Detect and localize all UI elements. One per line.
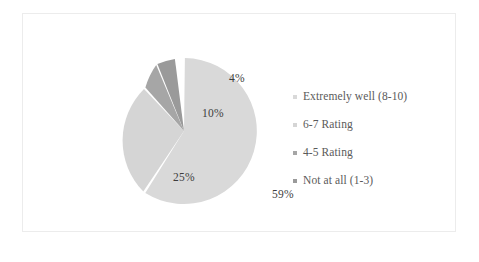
- slice-value-label-extremely-well: 59%: [272, 188, 294, 200]
- square-marker-icon: [293, 95, 297, 99]
- chart-legend: Extremely well (8-10) 6-7 Rating 4-5 Rat…: [293, 83, 463, 195]
- slice-value-label-not-at-all: 4%: [229, 72, 245, 84]
- legend-item-label: Not at all (1-3): [303, 174, 373, 186]
- pie-plot-area: 59% 25% 10% 4%: [89, 45, 279, 220]
- legend-item-extremely-well[interactable]: Extremely well (8-10): [293, 83, 463, 109]
- square-marker-icon: [293, 179, 297, 183]
- pie-chart-svg: [89, 45, 279, 220]
- slice-value-label-4-5-rating: 10%: [202, 107, 224, 119]
- legend-item-label: Extremely well (8-10): [303, 90, 407, 102]
- legend-item-4-5-rating[interactable]: 4-5 Rating: [293, 139, 463, 165]
- square-marker-icon: [293, 151, 297, 155]
- legend-item-label: 6-7 Rating: [303, 118, 353, 130]
- legend-item-6-7-rating[interactable]: 6-7 Rating: [293, 111, 463, 137]
- square-marker-icon: [293, 123, 297, 127]
- legend-item-not-at-all[interactable]: Not at all (1-3): [293, 167, 463, 193]
- slice-value-label-6-7-rating: 25%: [173, 171, 195, 183]
- legend-item-label: 4-5 Rating: [303, 146, 353, 158]
- chart-screenshot: 59% 25% 10% 4% Extremely well (8-10) 6-7…: [0, 0, 479, 262]
- chart-frame: 59% 25% 10% 4% Extremely well (8-10) 6-7…: [22, 13, 456, 232]
